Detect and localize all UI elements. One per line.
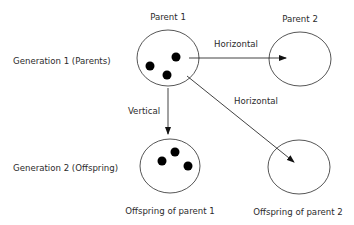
transmission-diagram: Generation 1 (Parents) Generation 2 (Off… [0,0,354,225]
organism-dot [172,53,181,62]
horizontal-edge-label-2: Horizontal [234,96,278,106]
organism-dot [171,148,180,157]
parent-1-label: Parent 1 [150,12,186,22]
horizontal-arrow-to-offspring-2 [187,76,294,162]
organism-dot [146,62,155,71]
offspring-2-label: Offspring of parent 2 [253,207,343,217]
offspring-1-label: Offspring of parent 1 [125,206,215,216]
parent-2-circle [269,32,331,86]
row-label-generation-2: Generation 2 (Offspring) [13,163,118,173]
organism-dot [184,162,193,171]
parent-2-label: Parent 2 [282,14,318,24]
organism-dot [158,157,167,166]
horizontal-edge-label-1: Horizontal [214,39,258,49]
row-label-generation-1: Generation 1 (Parents) [13,56,111,66]
organism-dot [163,71,172,80]
vertical-edge-label: Vertical [128,106,160,116]
offspring-1-node [140,139,200,193]
